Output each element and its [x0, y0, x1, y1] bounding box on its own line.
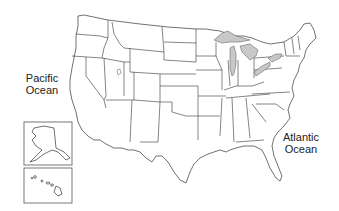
pacific-label-line2: Ocean: [22, 84, 62, 96]
atlantic-label-line1: Atlantic: [278, 131, 324, 143]
atlantic-label-line2: Ocean: [278, 143, 324, 155]
us-outline-map: [0, 0, 339, 211]
pacific-label-line1: Pacific: [22, 72, 62, 84]
atlantic-ocean-label: Atlantic Ocean: [278, 131, 324, 155]
hawaii-inset-box: [24, 168, 72, 203]
pacific-ocean-label: Pacific Ocean: [22, 72, 62, 96]
